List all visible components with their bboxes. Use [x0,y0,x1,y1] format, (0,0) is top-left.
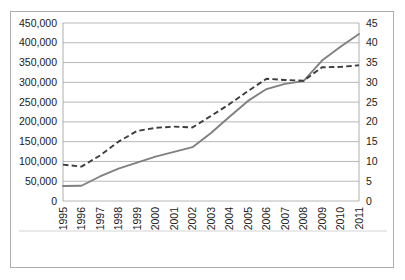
x-axis-tick-label: 2009 [316,207,328,231]
x-axis-tick-label: 2007 [279,207,291,231]
y-axis-right-tick-label: 10 [366,155,378,167]
x-axis-tick-label: 2002 [186,207,198,231]
x-axis-tick-label: 2006 [260,207,272,231]
line-chart: 050,000100,000150,000200,000250,000300,0… [11,12,395,269]
x-axis-tick-label: 2011 [353,207,365,230]
series-line [63,65,359,166]
x-axis-tick-label: 1995 [57,207,69,231]
y-axis-left-tick-label: 450,000 [19,17,57,29]
y-axis-right-tick-label: 35 [366,56,378,68]
y-axis-left-tick-label: 350,000 [19,56,57,68]
y-axis-right-tick-label: 45 [366,17,378,29]
x-axis-tick-label: 2008 [297,207,309,231]
y-axis-right-tick-label: 30 [366,76,378,88]
x-axis-tick-label: 1996 [75,207,87,231]
x-axis-tick-label: 2004 [223,207,235,231]
y-axis-right-tick-label: 0 [366,195,372,207]
x-axis-tick-label: 2003 [205,207,217,231]
y-axis-left-tick-label: 200,000 [19,115,57,127]
y-axis-left-tick-label: 400,000 [19,36,57,48]
x-axis-ticks: 1995199619971998199920002001200220032004… [57,207,365,231]
x-axis-tick-label: 1999 [131,207,143,231]
x-axis-tick-label: 2010 [334,207,346,231]
chart-container: 050,000100,000150,000200,000250,000300,0… [10,11,394,268]
y-axis-right-tick-label: 20 [366,115,378,127]
x-axis-tick-label: 2005 [242,207,254,231]
x-axis-tick-label: 1997 [94,207,106,231]
y-axis-right-tick-label: 25 [366,96,378,108]
plot-area: 050,000100,000150,000200,000250,000300,0… [11,12,395,269]
y-axis-right-tick-label: 15 [366,135,378,147]
x-axis-tick-label: 2000 [149,207,161,231]
y-axis-left-tick-label: 50,000 [25,175,57,187]
y-axis-left-tick-label: 0 [51,195,57,207]
series-line [63,34,359,186]
y-axis-left-tick-label: 100,000 [19,155,57,167]
y-axis-right-tick-label: 40 [366,36,378,48]
y-axis-right-tick-label: 5 [366,175,372,187]
y-axis-left-tick-label: 300,000 [19,76,57,88]
y-axis-left-tick-label: 250,000 [19,96,57,108]
x-axis-tick-label: 2001 [168,207,180,231]
y-axis-left-tick-label: 150,000 [19,135,57,147]
y-axis-right-ticks: 051015202530354045 [366,17,378,207]
series-group [63,34,359,186]
y-axis-left-ticks: 050,000100,000150,000200,000250,000300,0… [19,17,57,207]
x-axis-tick-label: 1998 [112,207,124,231]
